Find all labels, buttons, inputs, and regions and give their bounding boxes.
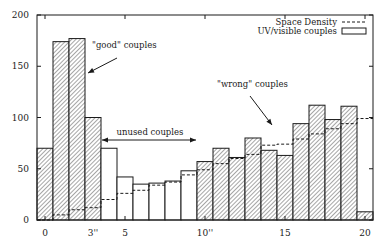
x-tick-label: 3'' xyxy=(88,228,99,238)
x-tick-label: 20 xyxy=(359,228,371,238)
bar xyxy=(117,177,133,220)
x-tick-label: 15 xyxy=(279,228,291,238)
y-tick-label: 50 xyxy=(18,164,30,174)
x-tick-label: 10'' xyxy=(197,228,213,238)
y-tick-label: 150 xyxy=(12,61,29,71)
y-tick-label: 0 xyxy=(23,215,29,225)
legend: Space DensityUV/visible couples xyxy=(257,17,366,36)
bar xyxy=(261,150,277,220)
y-tick-label: 200 xyxy=(12,10,29,20)
bar xyxy=(69,39,85,220)
annotation: "wrong" couples xyxy=(217,79,288,125)
annotation-label: "wrong" couples xyxy=(217,79,288,89)
bar xyxy=(85,118,101,221)
annotation-label: unused couples xyxy=(117,127,184,137)
bar xyxy=(213,148,229,220)
bar xyxy=(37,148,53,220)
bar xyxy=(165,181,181,220)
annotation: "good" couples xyxy=(88,40,157,73)
bar xyxy=(229,157,245,220)
legend-label: UV/visible couples xyxy=(257,26,337,36)
bar xyxy=(101,148,117,220)
legend-box-icon xyxy=(342,28,366,34)
bar xyxy=(181,171,197,220)
annotation-label: "good" couples xyxy=(92,40,157,50)
arrowhead-icon xyxy=(266,119,272,125)
bar xyxy=(325,120,341,220)
bar xyxy=(293,124,309,220)
histogram-chart: 03''510''1520 050100150200 "good" couple… xyxy=(0,0,390,248)
arrowhead-icon xyxy=(190,138,196,143)
bar xyxy=(277,155,293,220)
bar xyxy=(245,138,261,220)
annotations: "good" couplesunused couples"wrong" coup… xyxy=(88,40,288,143)
x-tick-label: 0 xyxy=(42,228,48,238)
bar xyxy=(149,183,165,220)
x-tick-label: 5 xyxy=(122,228,128,238)
y-tick-label: 100 xyxy=(12,113,29,123)
uv-visible-bars xyxy=(37,39,373,220)
bar xyxy=(53,42,69,220)
bar xyxy=(309,105,325,220)
bar xyxy=(197,162,213,220)
bar xyxy=(133,184,149,220)
annotation: unused couples xyxy=(102,127,196,143)
arrowhead-icon xyxy=(102,138,108,143)
